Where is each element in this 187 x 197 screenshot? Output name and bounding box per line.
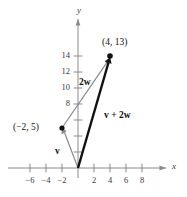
y-tick-label-14: 14	[62, 50, 71, 60]
y-axis-label: y	[76, 5, 81, 15]
point-label-sum: (4, 13)	[102, 37, 127, 48]
x-axis-arrowhead	[160, 166, 167, 171]
vector-v	[62, 128, 79, 168]
point-sum	[107, 53, 113, 59]
vector-label-v: v	[55, 146, 60, 156]
axes-group	[8, 19, 166, 178]
x-tick-label--2: −2	[57, 175, 66, 185]
vector-label-2w: 2w	[79, 77, 91, 87]
x-tick-label--6: −6	[25, 175, 34, 185]
y-tick-labels: 8 10 12 14	[62, 50, 71, 108]
point-v	[59, 125, 64, 130]
x-axis-label: x	[171, 161, 176, 171]
x-tick-label--4: −4	[41, 175, 51, 185]
x-tick-label-4: 4	[108, 175, 113, 185]
vector-label-v-plus-2w: v + 2w	[104, 110, 131, 120]
x-tick-label-8: 8	[140, 175, 144, 185]
y-tick-label-10: 10	[62, 82, 71, 92]
vector-addition-figure: −6 −4 −2 2 4 6 8 8 10 12 14 x y	[0, 0, 187, 197]
y-axis-arrowhead	[76, 19, 81, 26]
x-tick-label-2: 2	[92, 175, 96, 185]
y-tick-label-8: 8	[66, 98, 70, 108]
x-tick-labels: −6 −4 −2 2 4 6 8	[25, 175, 144, 185]
y-tick-label-12: 12	[62, 66, 71, 76]
x-tick-label-6: 6	[124, 175, 128, 185]
vector-v-shaft	[64, 132, 78, 168]
coordinate-plot: −6 −4 −2 2 4 6 8 8 10 12 14 x y	[0, 0, 187, 197]
point-label-v: (−2, 5)	[13, 122, 39, 133]
